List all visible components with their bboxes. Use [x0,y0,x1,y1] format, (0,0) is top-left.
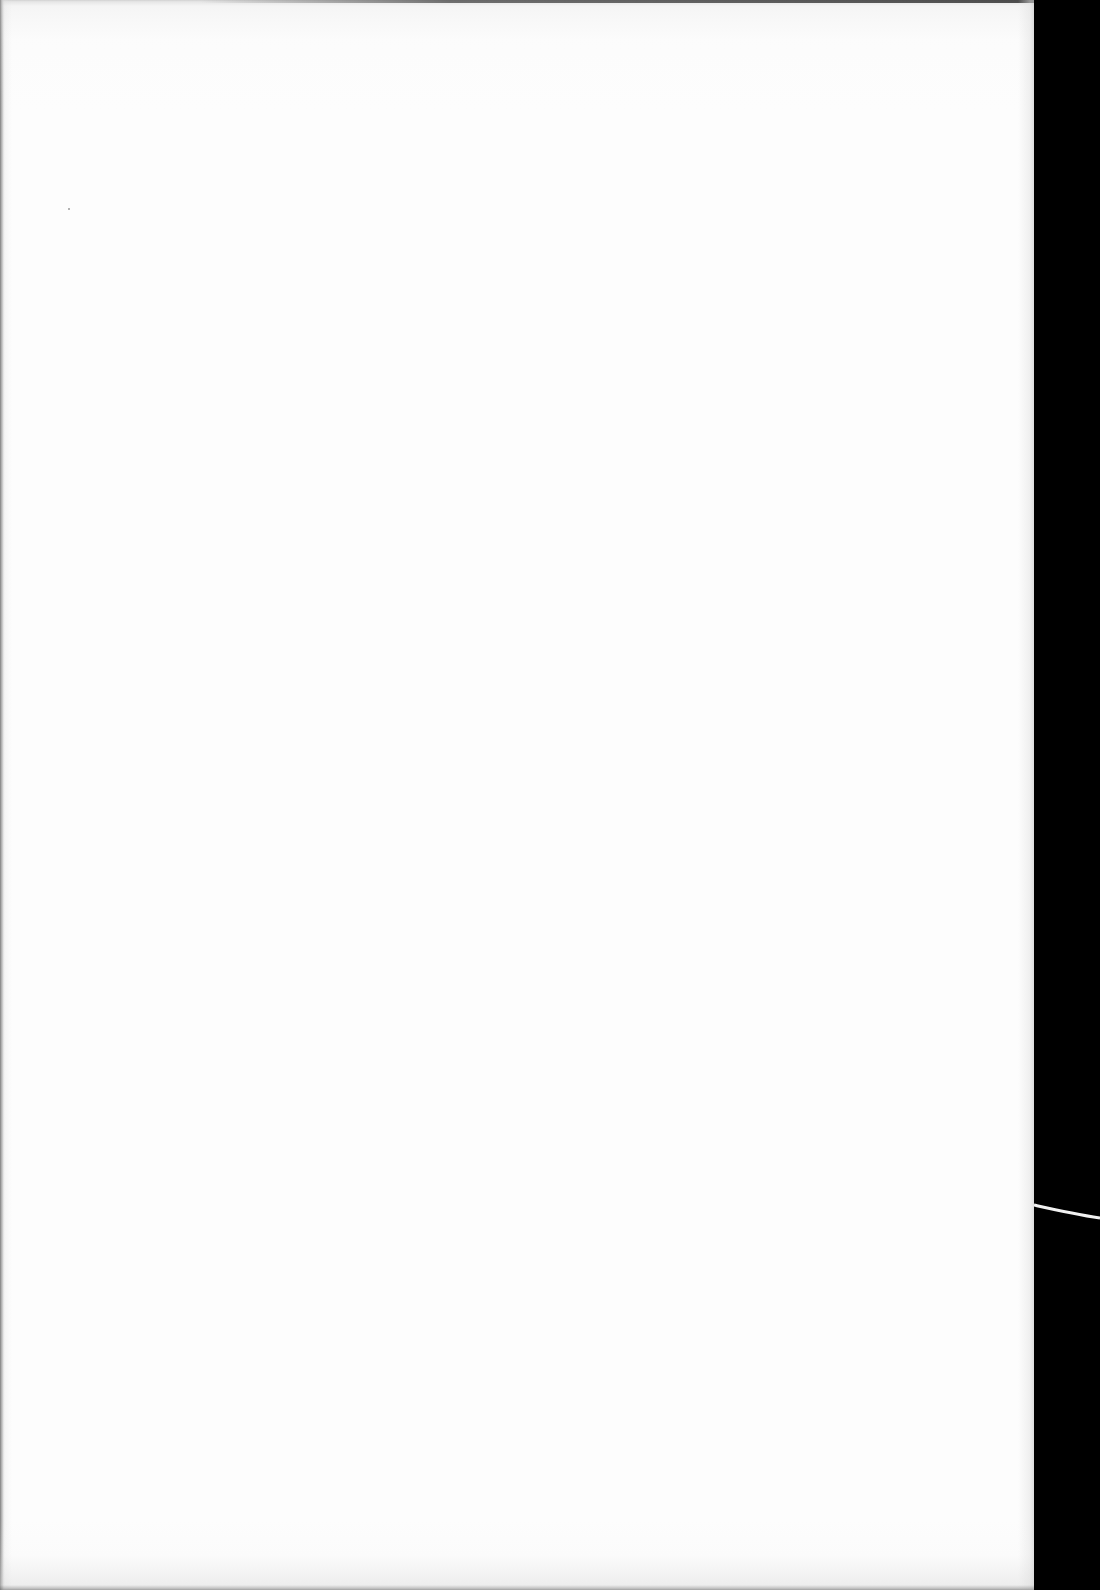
paper-edge-line [1034,0,1100,1590]
scan-edge-right [1018,0,1034,1590]
blank-scanned-page [0,0,1034,1590]
scan-edge-top [200,0,1034,3]
scan-edge-left [0,0,12,1590]
dust-speck [68,208,70,210]
scan-noise-bottom [0,1520,1034,1590]
scanner-background [1034,0,1100,1590]
scan-noise-top [0,0,1034,110]
